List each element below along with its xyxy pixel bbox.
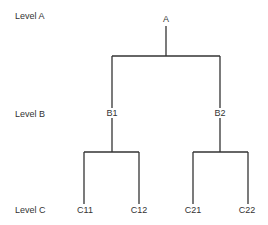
node-a: A — [162, 14, 170, 24]
node-c12: C12 — [130, 205, 149, 215]
node-c22: C22 — [238, 205, 257, 215]
node-c11: C11 — [76, 205, 94, 215]
level-a-label: Level A — [15, 11, 45, 21]
node-b1: B1 — [105, 108, 118, 118]
node-b2: B2 — [213, 108, 226, 118]
node-c21: C21 — [184, 205, 203, 215]
level-c-label: Level C — [15, 205, 46, 215]
level-b-label: Level B — [15, 109, 45, 119]
